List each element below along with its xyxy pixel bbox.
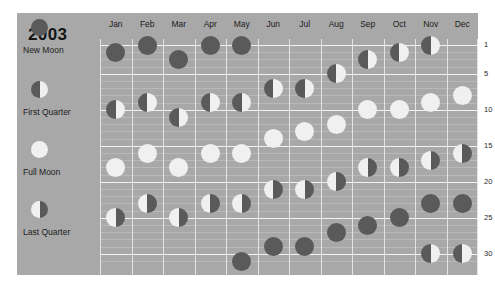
full-moon-marker (295, 122, 314, 141)
month-divider (100, 39, 101, 275)
last-moon-marker (138, 194, 157, 213)
day-label-25: 25 (484, 213, 492, 222)
month-divider (163, 39, 164, 275)
full-moon-marker (358, 100, 377, 119)
full-moon-icon (31, 141, 48, 158)
new-moon-marker (138, 36, 157, 55)
month-divider (415, 39, 416, 275)
first-moon-marker (138, 93, 157, 112)
day-label-20: 20 (484, 177, 492, 186)
new-moon-marker (453, 194, 472, 213)
new-moon-marker (421, 194, 440, 213)
month-label-oct: Oct (384, 19, 416, 29)
month-label-may: May (226, 19, 258, 29)
first-moon-marker (232, 93, 251, 112)
plot-area: JanFebMarAprMayJunJulAugSepOctNovDec (100, 13, 478, 275)
first-moon-marker (358, 50, 377, 69)
new-moon-marker (232, 252, 251, 271)
first-moon-marker (106, 100, 125, 119)
last-moon-marker (327, 172, 346, 191)
month-divider (289, 39, 290, 275)
last-moon-marker (453, 144, 472, 163)
day-label-1: 1 (484, 40, 488, 49)
day-tick (472, 146, 479, 147)
full-moon-marker (327, 115, 346, 134)
full-moon-marker (453, 86, 472, 105)
full-moon-marker (138, 144, 157, 163)
full-moon-marker (421, 93, 440, 112)
month-label-apr: Apr (195, 19, 227, 29)
month-divider (447, 39, 448, 275)
last-moon-marker (390, 158, 409, 177)
last-moon-marker (106, 208, 125, 227)
legend-label-first: First Quarter (23, 107, 71, 117)
last-moon-icon (31, 201, 48, 218)
day-label-30: 30 (484, 249, 492, 258)
first-moon-marker (169, 108, 188, 127)
day-label-5: 5 (484, 69, 488, 78)
first-moon-marker (201, 93, 220, 112)
first-moon-marker (453, 244, 472, 263)
last-moon-marker (295, 180, 314, 199)
day-tick (472, 45, 479, 46)
month-label-jan: Jan (100, 19, 132, 29)
new-moon-marker (390, 208, 409, 227)
last-moon-marker (201, 194, 220, 213)
month-divider (226, 39, 227, 275)
month-label-feb: Feb (132, 19, 164, 29)
month-divider (258, 39, 259, 275)
new-moon-icon (31, 19, 48, 36)
last-moon-marker (264, 180, 283, 199)
day-label-15: 15 (484, 141, 492, 150)
legend-label-new: New Moon (23, 45, 64, 55)
new-moon-marker (106, 43, 125, 62)
last-moon-marker (169, 208, 188, 227)
month-label-aug: Aug (321, 19, 353, 29)
day-label-10: 10 (484, 105, 492, 114)
month-divider (352, 39, 353, 275)
day-tick (472, 254, 479, 255)
month-divider (132, 39, 133, 275)
first-moon-marker (421, 36, 440, 55)
first-moon-icon (31, 81, 48, 98)
calendar-panel: 2003 New MoonFirst QuarterFull MoonLast … (17, 13, 478, 275)
day-tick (472, 74, 479, 75)
first-moon-marker (264, 79, 283, 98)
legend-label-last: Last Quarter (23, 227, 70, 237)
full-moon-marker (201, 144, 220, 163)
month-label-nov: Nov (415, 19, 447, 29)
legend-label-full: Full Moon (23, 167, 60, 177)
phase-grid (100, 39, 478, 275)
new-moon-marker (264, 237, 283, 256)
new-moon-marker (358, 216, 377, 235)
month-label-sep: Sep (352, 19, 384, 29)
full-moon-marker (169, 158, 188, 177)
day-tick (472, 218, 479, 219)
new-moon-marker (169, 50, 188, 69)
first-moon-marker (421, 244, 440, 263)
new-moon-marker (201, 36, 220, 55)
full-moon-marker (106, 158, 125, 177)
new-moon-marker (295, 237, 314, 256)
full-moon-marker (264, 129, 283, 148)
month-divider (195, 39, 196, 275)
moon-phase-calendar: 2003 New MoonFirst QuarterFull MoonLast … (0, 0, 495, 290)
first-moon-marker (390, 43, 409, 62)
first-moon-marker (295, 79, 314, 98)
month-label-dec: Dec (447, 19, 479, 29)
day-tick (472, 110, 479, 111)
legend: 2003 New MoonFirst QuarterFull MoonLast … (17, 13, 100, 275)
new-moon-marker (327, 223, 346, 242)
month-label-jul: Jul (289, 19, 321, 29)
day-tick (472, 182, 479, 183)
first-moon-marker (327, 64, 346, 83)
month-label-jun: Jun (258, 19, 290, 29)
full-moon-marker (390, 100, 409, 119)
last-moon-marker (232, 194, 251, 213)
month-divider (384, 39, 385, 275)
month-divider (321, 39, 322, 275)
last-moon-marker (421, 151, 440, 170)
month-label-mar: Mar (163, 19, 195, 29)
full-moon-marker (232, 144, 251, 163)
last-moon-marker (358, 158, 377, 177)
